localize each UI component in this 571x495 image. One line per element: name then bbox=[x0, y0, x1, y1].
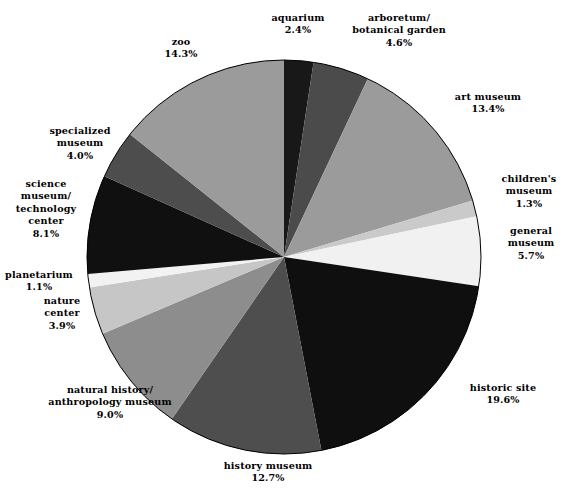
pie-chart-figure: aquarium2.4%arboretum/botanical garden4.… bbox=[0, 0, 571, 495]
pie-chart-canvas bbox=[0, 0, 571, 495]
